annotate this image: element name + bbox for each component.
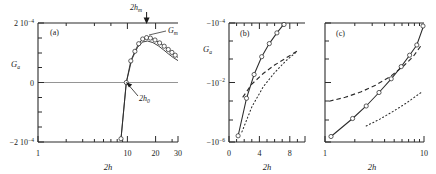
annotation-2h0-sub: 0 [147,98,150,104]
annotation-2h0-text: 2h [139,94,147,103]
panel-a-ylabel-sub: a [17,64,20,70]
panel-b-tag: (b) [240,29,250,38]
panel-b-ytick-bottom-mantissa: −10 [207,138,220,147]
panel-b-ytick-mid-exponent: −2 [219,77,225,83]
figure-svg: (a) 2 10−4 0 −2 10−4 1 10 20 30 2h Ga 2h… [0,0,436,174]
panel-a-ytick-zero: 0 [30,79,34,88]
panel-b-ytick-bottom-exponent: −6 [219,137,225,143]
panel-a-ytick-top-exponent: −4 [28,18,34,24]
panel-a-xtick-10: 10 [123,149,131,158]
panel-b-xtick-8: 8 [288,149,292,158]
annotation-gm-sub: m [174,30,178,36]
panel-b-xtick-4: 4 [257,149,261,158]
panel-b-ytick-mid-mantissa: −10 [207,79,220,88]
panel-a-tag: (a) [50,28,59,37]
panel-b-xlabel: 2h [263,162,272,172]
panel-a-xtick-1: 1 [36,149,40,158]
panel-b-ytick-top-exponent: −4 [219,18,225,24]
panel-b-ytick-top-mantissa: −10 [207,19,220,28]
panel-a-ytick-top-mantissa: 2 10 [14,19,28,28]
annotation-2hm-sub: m [138,7,142,13]
panel-b-ylabel-sub: a [209,49,212,55]
annotation-2hm-text: 2h [130,3,138,12]
panel-a-xlabel: 2h [104,162,113,172]
panel-c-xlabel: 2h [368,162,377,172]
panel-a-ytick-bottom-mantissa: −2 10 [10,138,29,147]
figure-root: (a) 2 10−4 0 −2 10−4 1 10 20 30 2h Ga 2h… [0,0,436,174]
panel-a-ytick-bottom-exponent: −4 [28,137,34,143]
panel-a-xtick-30: 30 [174,149,182,158]
panel-c-tag: (c) [336,29,345,38]
panel-b-xtick-0: 0 [227,149,231,158]
panel-a-xtick-20: 20 [152,149,160,158]
panel-c-xtick-1: 1 [323,149,327,158]
panel-c-xtick-10: 10 [420,149,428,158]
